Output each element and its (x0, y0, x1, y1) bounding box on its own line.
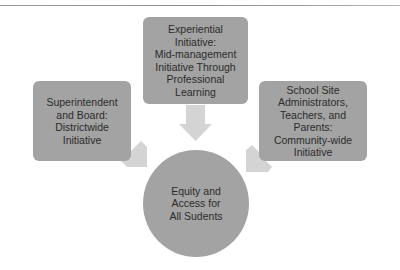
top-node: Experiential Initiative: Mid-management … (143, 17, 248, 104)
arrow-down-icon (179, 105, 212, 141)
right-node: School Site Administrators, Teachers, an… (259, 81, 367, 161)
right-node-label: School Site Administrators, Teachers, an… (260, 84, 366, 159)
center-node-label: Equity and Access for All Sudents (169, 185, 222, 223)
left-node: Superintendent and Board: Districtwide I… (33, 81, 131, 161)
top-node-label: Experiential Initiative: Mid-management … (146, 23, 245, 98)
center-node: Equity and Access for All Sudents (143, 150, 249, 257)
left-node-label: Superintendent and Board: Districtwide I… (46, 96, 117, 146)
